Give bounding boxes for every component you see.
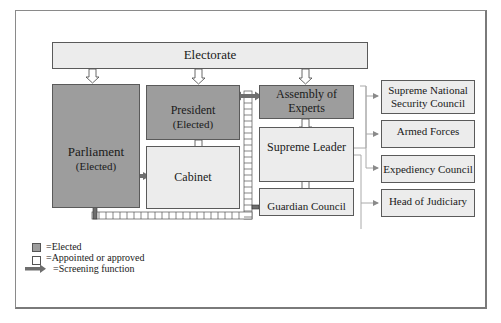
node-snsc: Supreme National Security Council (381, 80, 475, 114)
node-president-label: President (171, 104, 216, 118)
node-assembly-line1: Assembly of (276, 88, 337, 102)
node-president-sub: (Elected) (173, 118, 213, 131)
node-supreme-leader: Supreme Leader (259, 127, 354, 182)
node-electorate-label: Electorate (184, 48, 237, 63)
node-expediency-council: Expediency Council (381, 155, 475, 183)
node-parliament-label: Parliament (68, 145, 124, 160)
node-guardian-council-label: Guardian Council (267, 200, 346, 213)
node-guardian-council: Guardian Council (259, 188, 354, 216)
legend-screening-label: =Screening function (53, 263, 134, 274)
node-expediency-label: Expediency Council (383, 163, 473, 176)
node-cabinet-label: Cabinet (174, 171, 211, 185)
node-snsc-line2: Security Council (391, 97, 465, 110)
node-judiciary-label: Head of Judiciary (389, 195, 467, 208)
node-parliament: Parliament (Elected) (52, 84, 140, 208)
node-president: President (Elected) (146, 85, 240, 140)
node-head-of-judiciary: Head of Judiciary (381, 189, 475, 217)
screening-arrow-icon (25, 264, 47, 273)
legend-elected-label: =Elected (46, 241, 82, 252)
node-supreme-leader-label: Supreme Leader (267, 141, 346, 155)
legend-appointed-label: =Appointed or approved (46, 252, 144, 263)
node-parliament-sub: (Elected) (76, 160, 116, 173)
node-armed-forces-label: Armed Forces (397, 125, 460, 138)
node-assembly-line2: Experts (288, 102, 325, 116)
node-electorate: Electorate (52, 42, 368, 69)
node-snsc-line1: Supreme National (388, 84, 468, 97)
legend-elected-swatch (32, 243, 41, 252)
node-assembly-of-experts: Assembly of Experts (259, 85, 354, 119)
node-cabinet: Cabinet (146, 146, 240, 209)
node-armed-forces: Armed Forces (381, 120, 475, 148)
